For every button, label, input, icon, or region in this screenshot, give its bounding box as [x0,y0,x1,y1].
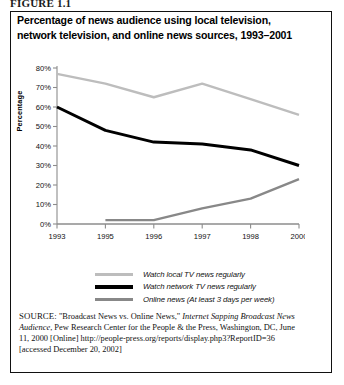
legend-swatch-network-tv-icon [95,285,133,289]
svg-text:1997: 1997 [194,232,211,241]
svg-text:20%: 20% [36,181,51,190]
line-chart-svg: 0%10%20%30%40%50%60%70%80%19931995199619… [17,60,305,260]
legend-item-online-news: Online news (At least 3 days per week) [95,293,315,306]
figure-label: FIGURE 1.1 [10,0,71,9]
legend-swatch-local-tv-icon [95,273,133,276]
svg-text:70%: 70% [36,83,51,92]
source-text-part-1: "Broadcast News vs. Online News," [57,312,182,321]
svg-text:1995: 1995 [97,232,114,241]
svg-text:40%: 40% [36,142,51,151]
chart-legend: Watch local TV news regularly Watch netw… [95,268,315,306]
legend-label-network-tv: Watch network TV news regularly [143,282,256,291]
source-citation: SOURCE: "Broadcast News vs. Online News,… [19,311,307,355]
legend-label-online-news: Online news (At least 3 days per week) [143,295,274,304]
svg-text:1993: 1993 [49,232,66,241]
svg-text:0%: 0% [40,220,51,229]
legend-item-network-tv: Watch network TV news regularly [95,281,315,294]
svg-text:10%: 10% [36,200,51,209]
svg-text:1998: 1998 [242,232,259,241]
svg-text:60%: 60% [36,103,51,112]
svg-text:30%: 30% [36,161,51,170]
svg-text:80%: 80% [36,64,51,73]
figure-page: FIGURE 1.1 Percentage of news audience u… [0,0,344,385]
legend-swatch-online-news-icon [95,298,133,301]
chart-title: Percentage of news audience using local … [17,13,303,42]
legend-item-local-tv: Watch local TV news regularly [95,268,315,281]
chart-plot-area: Percentage 0%10%20%30%40%50%60%70%80%199… [17,60,305,260]
svg-text:2000: 2000 [291,232,305,241]
svg-text:1996: 1996 [145,232,162,241]
svg-text:50%: 50% [36,122,51,131]
legend-label-local-tv: Watch local TV news regularly [143,270,245,279]
source-kicker: SOURCE: [19,311,57,321]
source-text-part-2: , Pew Research Center for the People & t… [19,323,295,354]
